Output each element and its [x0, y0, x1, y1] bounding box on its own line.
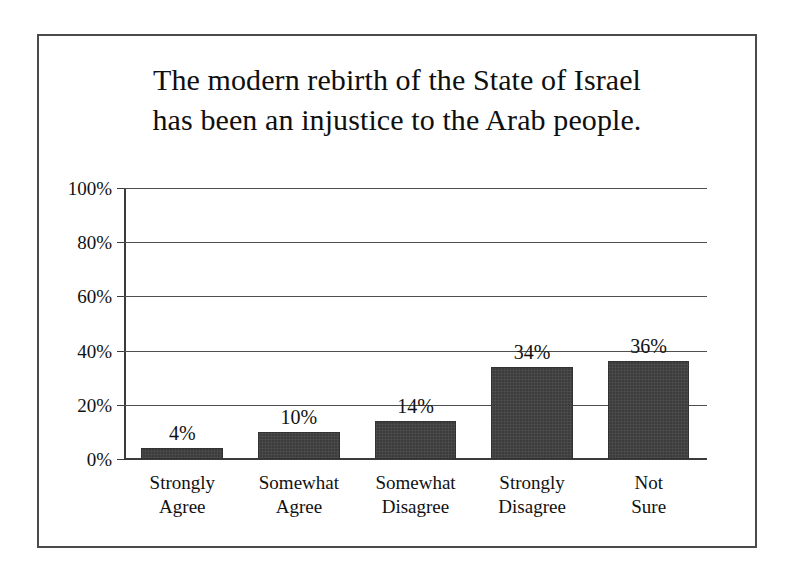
bar[interactable]: [491, 367, 573, 459]
bar-value-label: 34%: [514, 342, 551, 362]
y-axis-tick: [117, 296, 124, 297]
bar[interactable]: [258, 432, 340, 459]
bar[interactable]: [375, 421, 457, 459]
x-axis-category-label: Somewhat Disagree: [357, 471, 474, 519]
bar-group: 36%: [608, 188, 690, 459]
x-axis-category-label: Strongly Disagree: [474, 471, 591, 519]
bar-group: 10%: [258, 188, 340, 459]
plot-area: 0%20%40%60%80%100% 4%10%14%34%36% Strong…: [124, 188, 707, 459]
x-axis-category-label: Somewhat Agree: [241, 471, 358, 519]
figure-frame: The modern rebirth of the State of Israe…: [37, 34, 757, 548]
bar-value-label: 4%: [169, 423, 196, 443]
y-axis-label: 40%: [77, 341, 112, 360]
plot-wrapper: 0%20%40%60%80%100% 4%10%14%34%36% Strong…: [39, 36, 755, 546]
bar-group: 14%: [375, 188, 457, 459]
y-axis-label: 80%: [77, 233, 112, 252]
bar-value-label: 14%: [397, 396, 434, 416]
bar-group: 4%: [141, 188, 223, 459]
bar-value-label: 10%: [281, 407, 318, 427]
y-axis-tick: [117, 459, 124, 460]
y-axis-tick: [117, 351, 124, 352]
y-axis-tick: [117, 242, 124, 243]
bar[interactable]: [608, 361, 690, 459]
x-axis-category-label: Not Sure: [590, 471, 707, 519]
y-axis-tick: [117, 405, 124, 406]
gridline-0pct: [124, 459, 707, 460]
bar[interactable]: [141, 448, 223, 459]
bar-group: 34%: [491, 188, 573, 459]
bar-value-label: 36%: [630, 336, 667, 356]
y-axis-tick: [117, 188, 124, 189]
y-axis-label: 0%: [87, 450, 112, 469]
chart-page: The modern rebirth of the State of Israe…: [0, 0, 797, 586]
y-axis-label: 100%: [68, 179, 112, 198]
y-axis-label: 60%: [77, 287, 112, 306]
bars-layer: 4%10%14%34%36%: [124, 188, 707, 459]
x-axis-category-label: Strongly Agree: [124, 471, 241, 519]
y-axis-label: 20%: [77, 395, 112, 414]
